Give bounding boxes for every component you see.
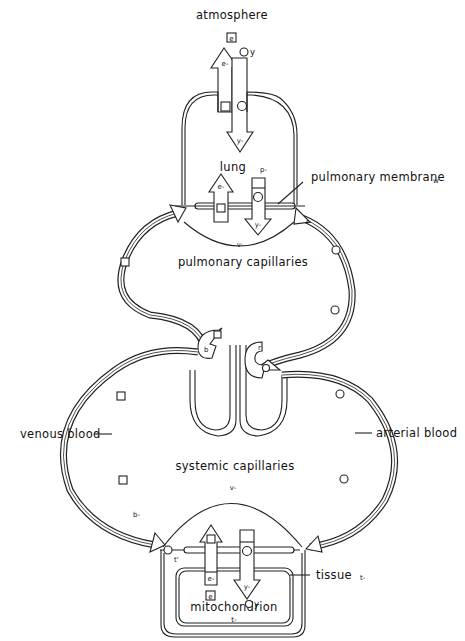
y-minus-tissue: y- (244, 583, 251, 591)
square-marker-icon (121, 258, 129, 266)
b-minus-label: b- (133, 511, 140, 519)
arterial-blood-vessel (282, 374, 395, 547)
circle-marker-icon (332, 246, 340, 254)
r-minus-label: r- (306, 218, 311, 226)
e-minus-top: e- (222, 60, 229, 68)
r-symbol: r (258, 344, 261, 352)
square-marker-icon (119, 476, 127, 484)
square-marker-icon (214, 331, 221, 338)
venous-blood-label: venous blood (20, 427, 101, 441)
y-symbol-top: y (250, 47, 255, 57)
mitochondrion-sub: t- (231, 616, 237, 624)
circle-marker-icon (331, 306, 339, 314)
tissue-label: tissue (316, 568, 352, 582)
square-marker-icon (221, 102, 230, 111)
t-prime-label: t' (174, 556, 179, 564)
tissue-membrane (184, 547, 294, 553)
circle-marker-icon (340, 475, 348, 483)
lung-sub: p- (260, 166, 267, 174)
arterial-from-lung (262, 218, 352, 368)
venous-collect-arrowhead-icon (150, 533, 165, 552)
atmosphere-label: atmosphere (196, 8, 268, 22)
circle-marker-icon (240, 48, 248, 56)
y-minus-lung: y- (255, 221, 262, 229)
square-marker-icon (207, 535, 215, 543)
pulmonary-membrane-sub: w (433, 177, 439, 185)
circle-marker-icon (164, 546, 172, 554)
pulmonary-capillaries-label: pulmonary capillaries (178, 255, 308, 269)
systemic-capillary-arc (163, 504, 302, 548)
heart-septum (190, 345, 287, 436)
circle-marker-icon (238, 102, 247, 111)
circle-marker-icon (263, 365, 270, 372)
mitochondrion-label: mitochondrion (190, 600, 277, 614)
v-minus-systemic: v- (230, 484, 237, 492)
membrane-up-arrow-e-icon (209, 174, 233, 222)
systemic-capillaries-label: systemic capillaries (175, 459, 294, 473)
gas-transport-diagram: atmosphere e y e- y- lung p- e- y- pulmo… (0, 0, 465, 641)
b-symbol: b (204, 346, 209, 354)
e-minus-lung: e- (218, 183, 225, 191)
arterial-blood-label: arterial blood (376, 426, 457, 440)
venous-return-to-lung (121, 213, 205, 350)
venous-blood-vessel (63, 350, 198, 545)
arterial-delivery-arrowhead-icon (306, 536, 322, 552)
circle-marker-icon (243, 547, 252, 556)
square-marker-icon (117, 392, 125, 400)
y-minus-top: y- (237, 137, 244, 145)
y-symbol-tissue: y (254, 599, 259, 609)
tissue-sub: t- (360, 574, 366, 582)
e-box-symbol: e (229, 35, 233, 43)
square-marker-icon (217, 204, 225, 212)
e-box-tissue: e (208, 593, 212, 601)
v-minus-pulmonary: v- (237, 241, 244, 249)
circle-marker-icon (336, 390, 344, 398)
e-minus-tissue: e- (208, 575, 215, 583)
lung-label: lung (220, 160, 246, 174)
circle-marker-icon (254, 193, 263, 202)
circle-marker-icon (246, 601, 253, 608)
membrane-leader-line (278, 182, 303, 204)
pulmonary-membrane-label: pulmonary membrane (311, 170, 445, 184)
